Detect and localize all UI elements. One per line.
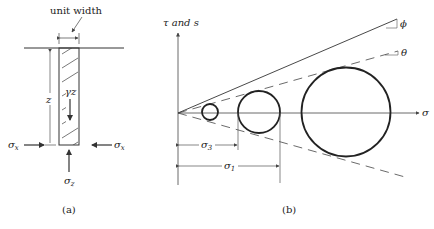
- mohr-circle-small: [202, 104, 218, 120]
- weight-label: γz: [65, 86, 77, 97]
- phi-label: ϕ: [400, 18, 407, 29]
- theta-label: θ: [401, 47, 407, 58]
- phi-envelope-line: [178, 19, 397, 113]
- mohr-circle-diagram: unit width γz z σx σx σz (a) τ and s: [0, 0, 434, 229]
- caption-b: (b): [282, 204, 296, 215]
- y-axis-label: τ and s: [163, 17, 199, 28]
- unit-width-label: unit width: [50, 5, 102, 16]
- caption-a: (a): [62, 204, 76, 215]
- x-axis-label: σ: [422, 107, 430, 118]
- sigma-x-left-label: σx: [8, 139, 19, 152]
- sigma-z-label: σz: [64, 175, 75, 188]
- unit-width-leader: [72, 17, 82, 32]
- panel-b: τ and s σ ϕ θ σ3 σ1 (b): [163, 17, 430, 215]
- mohr-circle-large: [302, 68, 391, 157]
- mohr-circle-medium: [238, 91, 280, 133]
- panel-a: unit width γz z σx σx σz (a): [8, 5, 125, 215]
- sigma-x-right-label: σx: [114, 139, 125, 152]
- depth-label: z: [45, 94, 52, 105]
